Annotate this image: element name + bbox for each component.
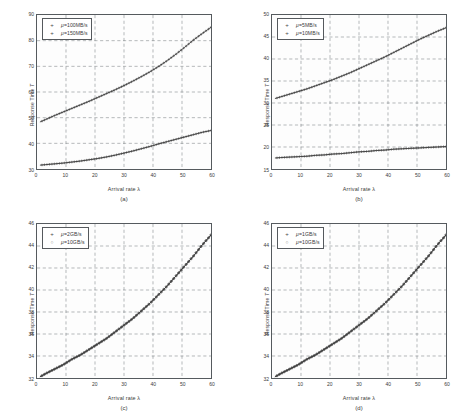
panel-c-x-axis-label-symbol: λ [137, 395, 140, 401]
plus-marker-icon: + [280, 231, 294, 237]
panel-b-legend: +μ=5MB/s+μ=10MB/s [277, 18, 324, 40]
panel-b-legend-label: μ=10MB/s [294, 30, 320, 36]
panel-d-y-axis-label-symbol: T [264, 292, 270, 295]
legend-value: =2GB/s [64, 231, 82, 237]
panel-b-x-tick-label: 40 [377, 173, 399, 178]
panel-b-x-axis-label-symbol: λ [372, 186, 375, 192]
panel-b-x-tick-label: 50 [407, 173, 429, 178]
panel-d-y-tick-label: 46 [247, 221, 269, 226]
panel-d-x-tick-label: 40 [377, 382, 399, 387]
panel-b-caption: (b) [271, 196, 447, 202]
panel-d-caption: (d) [271, 405, 447, 411]
panel-d-legend-label: μ=1GB/s [294, 231, 317, 237]
figure-four-panel-response-time: 30405060708090 0102030405060 Response Ti… [0, 0, 470, 418]
panel-b-x-tick-label: 60 [436, 173, 458, 178]
circle-marker-icon: ○ [45, 240, 59, 245]
panel-c-legend: +μ=2GB/s○μ=10GB/s [42, 227, 89, 249]
panel-a-x-tick-label: 40 [142, 173, 164, 178]
panel-a-caption: (a) [36, 196, 212, 202]
plus-marker-icon: + [45, 30, 59, 36]
panel-d-legend-item: +μ=1GB/s [280, 230, 320, 238]
panel-a-legend: +μ=100MB/s+μ=150MB/s [42, 18, 92, 40]
plus-marker-icon: + [45, 22, 59, 28]
panel-c-y-axis-label-symbol: T [29, 292, 35, 295]
panel-d-y-axis-label-text: Response Time [264, 295, 270, 334]
panel-d-x-tick-label: 50 [407, 382, 429, 387]
panel-b-y-axis-label-text: Response Time [264, 86, 270, 125]
panel-c-x-tick-label: 50 [172, 382, 194, 387]
legend-value: =100MB/s [64, 22, 88, 28]
panel-d-x-ticks: 0102030405060 [271, 382, 447, 392]
panel-a-x-tick-label: 60 [201, 173, 223, 178]
panel-a-y-axis-label-symbol: T [29, 83, 35, 86]
panel-d-x-axis-label-text: Arrival rate [343, 395, 373, 401]
panel-a-x-tick-label: 30 [113, 173, 135, 178]
panel-b-y-tick-label: 50 [247, 12, 269, 17]
panel-b-x-ticks: 0102030405060 [271, 173, 447, 183]
panel-d-x-tick-label: 60 [436, 382, 458, 387]
legend-value: =150MB/s [64, 30, 88, 36]
panel-c-x-ticks: 0102030405060 [36, 382, 212, 392]
panel-c-y-axis-label-text: Response Time [29, 295, 35, 334]
panel-d-legend-label: μ=10GB/s [294, 239, 320, 245]
plus-marker-icon: + [280, 30, 294, 36]
panel-b-y-axis-label-symbol: T [264, 83, 270, 86]
panel-c-x-tick-label: 20 [84, 382, 106, 387]
panel-c: 3234363840424446 0102030405060 Response … [0, 209, 235, 418]
panel-d-x-tick-label: 10 [289, 382, 311, 387]
panel-a-x-tick-label: 10 [54, 173, 76, 178]
panel-c-y-tick-label: 46 [12, 221, 34, 226]
plus-marker-icon: + [280, 22, 294, 28]
panel-d-legend-item: ○μ=10GB/s [280, 238, 320, 246]
panel-c-x-tick-label: 30 [113, 382, 135, 387]
panel-b-x-axis-label: Arrival rate λ [271, 186, 447, 192]
plus-marker-icon: + [45, 231, 59, 237]
panel-b-legend-item: +μ=5MB/s [280, 21, 320, 29]
panel-c-x-tick-label: 10 [54, 382, 76, 387]
panel-b: 1520253035404550 0102030405060 Response … [235, 0, 470, 209]
legend-value: =10MB/s [299, 30, 320, 36]
panel-c-x-axis-label-text: Arrival rate [108, 395, 138, 401]
panel-a-x-tick-label: 20 [84, 173, 106, 178]
panel-a-x-axis-label: Arrival rate λ [36, 186, 212, 192]
panel-a-y-axis-label: Response Time T [29, 35, 35, 175]
panel-c-x-tick-label: 40 [142, 382, 164, 387]
panel-b-x-tick-label: 20 [319, 173, 341, 178]
panel-a: 30405060708090 0102030405060 Response Ti… [0, 0, 235, 209]
panel-b-x-axis-label-text: Arrival rate [343, 186, 373, 192]
panel-a-legend-item: +μ=100MB/s [45, 21, 88, 29]
panel-c-x-axis-label: Arrival rate λ [36, 395, 212, 401]
panel-d-y-axis-label: Response Time T [264, 244, 270, 384]
panel-b-x-tick-label: 30 [348, 173, 370, 178]
legend-value: =1GB/s [299, 231, 317, 237]
panel-d-x-tick-label: 30 [348, 382, 370, 387]
panel-b-y-axis-label: Response Time T [264, 35, 270, 175]
panel-c-legend-item: ○μ=10GB/s [45, 238, 85, 246]
panel-a-legend-label: μ=100MB/s [59, 22, 88, 28]
panel-c-legend-label: μ=2GB/s [59, 231, 82, 237]
panel-a-x-axis-label-symbol: λ [137, 186, 140, 192]
panel-a-legend-label: μ=150MB/s [59, 30, 88, 36]
panel-a-y-tick-label: 90 [12, 12, 34, 17]
panel-d-x-tick-label: 20 [319, 382, 341, 387]
legend-value: =5MB/s [299, 22, 317, 28]
panel-c-caption: (c) [36, 405, 212, 411]
circle-marker-icon: ○ [280, 240, 294, 245]
panel-c-legend-item: +μ=2GB/s [45, 230, 85, 238]
panel-c-y-axis-label: Response Time T [29, 244, 35, 384]
legend-value: =10GB/s [64, 239, 85, 245]
panel-b-legend-label: μ=5MB/s [294, 22, 317, 28]
panel-a-legend-item: +μ=150MB/s [45, 29, 88, 37]
panel-b-x-tick-label: 10 [289, 173, 311, 178]
panel-b-legend-item: +μ=10MB/s [280, 29, 320, 37]
panel-a-x-ticks: 0102030405060 [36, 173, 212, 183]
panel-d-x-axis-label: Arrival rate λ [271, 395, 447, 401]
panel-d: 3234363840424446 0102030405060 Response … [235, 209, 470, 418]
panel-c-x-tick-label: 60 [201, 382, 223, 387]
panel-a-x-tick-label: 50 [172, 173, 194, 178]
panel-d-legend: +μ=1GB/s○μ=10GB/s [277, 227, 324, 249]
legend-value: =10GB/s [299, 239, 320, 245]
panel-a-x-axis-label-text: Arrival rate [108, 186, 138, 192]
panel-a-y-axis-label-text: Response Time [29, 86, 35, 125]
panel-d-x-axis-label-symbol: λ [372, 395, 375, 401]
